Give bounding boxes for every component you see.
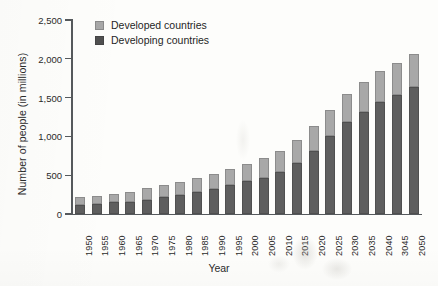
- bar-segment-developed: [125, 192, 135, 202]
- x-axis-tick-label: 2005: [267, 216, 277, 256]
- bar-segment-developed: [242, 164, 252, 182]
- stacked-bar: [92, 196, 102, 214]
- bar-segment-developing: [375, 102, 385, 214]
- stacked-bar: [209, 174, 219, 214]
- y-axis-tick-label: 0: [26, 209, 62, 220]
- legend-item-developing: Developing countries: [95, 33, 209, 47]
- y-axis-tick-label: 1,500: [26, 92, 62, 103]
- x-axis-tick-label: 1955: [100, 216, 110, 256]
- bar-segment-developing: [392, 95, 402, 215]
- stacked-bar: [292, 140, 302, 214]
- stacked-bar: [125, 192, 135, 214]
- stacked-bar: [325, 110, 335, 214]
- y-axis-tick: [65, 97, 72, 98]
- x-axis-title: Year: [0, 262, 438, 274]
- bar-segment-developed: [159, 185, 169, 197]
- x-axis-tick-label: 2000: [250, 216, 260, 256]
- y-axis-tick: [65, 136, 72, 137]
- y-axis-tick-label: 500: [26, 170, 62, 181]
- chart-legend: Developed countries Developing countries: [95, 18, 209, 48]
- x-axis-tick-label: 1950: [84, 216, 94, 256]
- bar-segment-developed: [309, 126, 319, 151]
- stacked-bar: [375, 71, 385, 214]
- legend-label-developed: Developed countries: [111, 19, 207, 31]
- bar-segment-developing: [192, 192, 202, 214]
- bar-segment-developed: [75, 197, 85, 204]
- bar-segment-developing: [209, 189, 219, 214]
- bar-segment-developing: [325, 136, 335, 214]
- stacked-bar: [75, 197, 85, 214]
- stacked-bar: [275, 151, 285, 214]
- bar-segment-developed: [342, 94, 352, 123]
- bar-segment-developing: [225, 185, 235, 214]
- x-axis-tick-label: 1960: [117, 216, 127, 256]
- x-axis-tick-label: 3045: [400, 216, 410, 256]
- legend-swatch-developed-icon: [95, 21, 104, 30]
- bar-segment-developing: [292, 163, 302, 214]
- x-axis-tick-label: 1990: [217, 216, 227, 256]
- x-axis-tick-label: 2040: [384, 216, 394, 256]
- stacked-bar: [142, 188, 152, 214]
- bar-segment-developing: [109, 202, 119, 214]
- legend-label-developing: Developing countries: [111, 34, 209, 46]
- bar-segment-developing: [159, 197, 169, 214]
- x-axis-tick-label: 1995: [234, 216, 244, 256]
- stacked-bar: [175, 182, 185, 214]
- bar-segment-developing: [409, 87, 419, 214]
- bar-segment-developed: [192, 178, 202, 192]
- bar-series-group: [72, 20, 422, 214]
- x-axis-tick-label: 2020: [317, 216, 327, 256]
- bar-segment-developed: [259, 158, 269, 177]
- bar-segment-developed: [392, 63, 402, 95]
- y-axis-tick-label: 1,000: [26, 131, 62, 142]
- x-axis-tick-label: 1965: [134, 216, 144, 256]
- x-axis-tick-label: 2035: [367, 216, 377, 256]
- bar-segment-developed: [225, 169, 235, 186]
- bar-segment-developed: [209, 174, 219, 189]
- x-axis-tick-label: 2050: [417, 216, 427, 256]
- bar-segment-developed: [359, 82, 369, 112]
- stacked-bar: [242, 164, 252, 214]
- x-axis-tick-label: 2015: [300, 216, 310, 256]
- bar-segment-developing: [75, 205, 85, 214]
- x-axis-tick-labels: 1950195519601965197019751980198519901995…: [72, 216, 422, 260]
- x-axis-tick-label: 2025: [334, 216, 344, 256]
- bar-segment-developing: [259, 178, 269, 214]
- stacked-bar: [342, 94, 352, 214]
- y-axis-tick: [65, 19, 72, 20]
- stacked-bar: [409, 54, 419, 214]
- stacked-bar: [392, 63, 402, 214]
- x-axis-tick-label: 1980: [184, 216, 194, 256]
- bar-segment-developing: [359, 112, 369, 214]
- y-axis-tick: [65, 175, 72, 176]
- stacked-bar: [309, 126, 319, 214]
- stacked-bar: [259, 158, 269, 214]
- stacked-bar: [192, 178, 202, 214]
- bar-segment-developed: [325, 110, 335, 137]
- bar-segment-developed: [409, 54, 419, 87]
- stacked-bar: [159, 185, 169, 214]
- x-axis-tick-label: 1970: [150, 216, 160, 256]
- population-projection-chart: Number of people (in millions) 05001,000…: [0, 0, 438, 286]
- bar-segment-developed: [275, 151, 285, 172]
- y-axis-tick: [65, 213, 72, 214]
- y-axis-tick-label: 2,500: [26, 15, 62, 26]
- x-axis-tick-label: 1975: [167, 216, 177, 256]
- bar-segment-developed: [92, 196, 102, 204]
- bar-segment-developed: [142, 188, 152, 199]
- stacked-bar: [109, 194, 119, 214]
- bar-segment-developing: [92, 204, 102, 214]
- bar-segment-developing: [275, 172, 285, 214]
- legend-item-developed: Developed countries: [95, 18, 209, 32]
- bar-segment-developing: [125, 202, 135, 214]
- x-axis-tick-label: 2010: [284, 216, 294, 256]
- bar-segment-developed: [175, 182, 185, 195]
- bar-segment-developed: [292, 140, 302, 163]
- bar-segment-developed: [375, 71, 385, 102]
- y-axis-tick-label: 2,000: [26, 53, 62, 64]
- bar-segment-developing: [342, 122, 352, 214]
- x-axis-tick-label: 1985: [200, 216, 210, 256]
- bar-segment-developing: [175, 195, 185, 214]
- stacked-bar: [359, 82, 369, 214]
- stacked-bar: [225, 169, 235, 214]
